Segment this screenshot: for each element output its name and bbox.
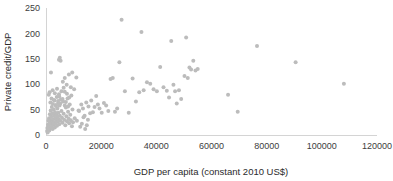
- data-point: [65, 83, 69, 87]
- data-point: [53, 91, 57, 95]
- data-point: [106, 109, 110, 113]
- y-tick-label: 150: [25, 54, 40, 64]
- data-point: [196, 67, 200, 71]
- data-point: [342, 82, 346, 86]
- data-point: [48, 100, 52, 104]
- data-point: [91, 110, 95, 114]
- data-point: [83, 127, 87, 131]
- data-point: [152, 87, 156, 91]
- data-point: [169, 39, 173, 43]
- data-point: [191, 59, 195, 63]
- x-tick-label: 20000: [89, 141, 114, 151]
- data-point: [94, 94, 98, 98]
- data-point: [294, 60, 298, 64]
- data-point: [236, 110, 240, 114]
- data-point: [139, 30, 143, 34]
- data-point: [127, 111, 131, 115]
- data-point: [148, 82, 152, 86]
- data-point: [115, 107, 119, 111]
- data-point: [70, 124, 74, 128]
- data-point: [86, 118, 90, 122]
- data-point: [71, 120, 75, 124]
- data-point: [70, 71, 74, 75]
- data-point: [93, 105, 97, 109]
- data-point: [134, 99, 138, 103]
- data-point: [111, 76, 115, 80]
- data-point: [184, 35, 188, 39]
- data-point: [162, 85, 166, 89]
- data-point: [96, 103, 100, 107]
- data-point: [77, 109, 81, 113]
- data-point: [182, 74, 186, 78]
- data-point: [226, 93, 230, 97]
- data-point: [179, 97, 183, 101]
- data-point: [171, 83, 175, 87]
- data-point: [61, 80, 65, 84]
- x-tick-label: 120000: [362, 141, 392, 151]
- data-point: [80, 122, 84, 126]
- data-point: [66, 105, 70, 109]
- y-tick-label: 250: [25, 3, 40, 13]
- data-point: [177, 88, 181, 92]
- data-point: [175, 102, 179, 106]
- chart-canvas: 050100150200250 020000400006000080000100…: [0, 0, 393, 181]
- x-tick-label: 40000: [144, 141, 169, 151]
- data-point: [131, 77, 135, 81]
- y-axis-title: Private credit/GDP: [2, 33, 13, 112]
- data-point: [54, 103, 58, 107]
- data-point: [58, 102, 62, 106]
- data-point: [75, 119, 79, 123]
- y-tick-label: 0: [35, 130, 40, 140]
- data-point: [49, 71, 53, 75]
- y-tick-label: 100: [25, 79, 40, 89]
- x-tick-label: 100000: [307, 141, 337, 151]
- data-point: [52, 98, 56, 102]
- plot-area: [46, 8, 376, 135]
- data-point: [117, 60, 121, 64]
- y-tick-label: 50: [30, 105, 40, 115]
- data-point: [84, 100, 88, 104]
- data-point: [64, 100, 68, 104]
- data-point: [85, 123, 89, 127]
- data-point: [255, 44, 259, 48]
- data-point: [104, 104, 108, 108]
- data-point: [165, 89, 169, 93]
- data-point: [70, 108, 74, 112]
- x-axis-title: GDP per capita (constant 2010 US$): [134, 166, 289, 177]
- x-tick-label: 60000: [199, 141, 224, 151]
- data-point: [69, 85, 73, 89]
- data-point: [79, 103, 83, 107]
- data-point: [100, 111, 104, 115]
- data-point: [62, 86, 66, 90]
- y-tick-labels: 050100150200250: [25, 3, 40, 140]
- y-tick-label: 200: [25, 29, 40, 39]
- data-point: [67, 95, 71, 99]
- data-point: [167, 95, 171, 99]
- data-point: [67, 73, 71, 77]
- data-point: [61, 97, 65, 101]
- data-point: [137, 90, 141, 94]
- data-point: [142, 88, 146, 92]
- data-point: [155, 89, 159, 93]
- data-point: [86, 105, 90, 109]
- x-tick-labels: 020000400006000080000100000120000: [43, 141, 392, 151]
- scatter-chart: 050100150200250 020000400006000080000100…: [0, 0, 393, 181]
- data-point: [83, 114, 87, 118]
- data-point: [123, 89, 127, 93]
- data-point: [158, 65, 162, 69]
- data-point: [89, 98, 93, 102]
- data-point: [57, 94, 61, 98]
- data-point: [74, 76, 78, 80]
- data-point: [120, 18, 124, 22]
- data-point: [63, 76, 67, 80]
- data-point: [59, 89, 63, 93]
- data-point: [189, 67, 193, 71]
- data-point: [98, 107, 102, 111]
- data-point: [63, 123, 67, 127]
- data-point: [72, 87, 76, 91]
- data-point: [59, 59, 63, 63]
- data-point: [55, 87, 59, 91]
- data-point: [81, 107, 85, 111]
- data-point: [68, 113, 72, 117]
- x-tick-label: 80000: [254, 141, 279, 151]
